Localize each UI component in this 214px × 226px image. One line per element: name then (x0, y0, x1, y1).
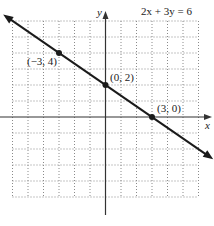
coordinate-plane (0, 0, 214, 226)
graph-line (3, 15, 213, 160)
equation-label: 2x + 3y = 6 (141, 6, 192, 17)
x-axis-label: x (205, 120, 210, 131)
line-arrow-start-icon (3, 15, 14, 24)
y-axis-arrow-icon (103, 11, 109, 19)
data-point (103, 82, 109, 88)
point-label-0-2: (0, 2) (110, 72, 134, 83)
point-label-3-0: (3, 0) (157, 103, 181, 114)
point-label-neg3-4: (−3, 4) (27, 56, 57, 67)
line-arrow-end-icon (203, 150, 214, 159)
y-axis-label: y (97, 7, 102, 18)
line-2x-plus-3y-eq-6 (8, 18, 208, 156)
data-point (149, 114, 155, 120)
